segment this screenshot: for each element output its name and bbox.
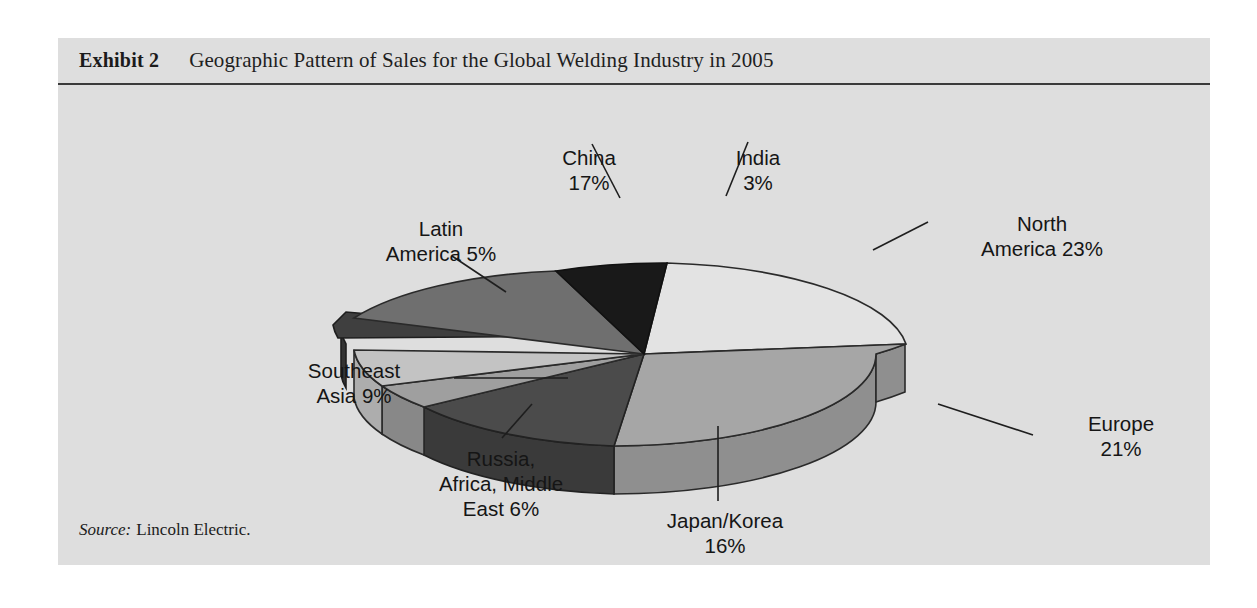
- label-north-america: North America 23%: [932, 211, 1152, 261]
- label-latin-america: Latin America 5%: [346, 216, 536, 266]
- exhibit-header: Exhibit 2 Geographic Pattern of Sales fo…: [58, 38, 1210, 82]
- leader-north-america: [873, 222, 928, 250]
- label-japan-korea: Japan/Korea 16%: [610, 508, 840, 558]
- label-europe: Europe 21%: [1036, 411, 1206, 461]
- exhibit-label: Exhibit 2: [79, 49, 159, 72]
- header-divider: [58, 83, 1210, 85]
- exhibit-panel: Exhibit 2 Geographic Pattern of Sales fo…: [58, 38, 1210, 565]
- label-india: India 3%: [698, 145, 818, 195]
- exhibit-title: Geographic Pattern of Sales for the Glob…: [189, 48, 773, 73]
- source-value: Lincoln Electric.: [136, 520, 250, 539]
- source-label: Source:: [79, 520, 131, 539]
- pie-chart: China 17% India 3% North America 23% Eur…: [58, 86, 1210, 516]
- label-russia-africa-middle-east: Russia, Africa, Middle East 6%: [386, 446, 616, 521]
- pie-slice-north-america: [644, 263, 906, 354]
- label-china: China 17%: [524, 145, 654, 195]
- label-southeast-asia: Southeast Asia 9%: [254, 358, 454, 408]
- source-line: Source:Lincoln Electric.: [79, 520, 250, 540]
- leader-europe: [938, 404, 1033, 435]
